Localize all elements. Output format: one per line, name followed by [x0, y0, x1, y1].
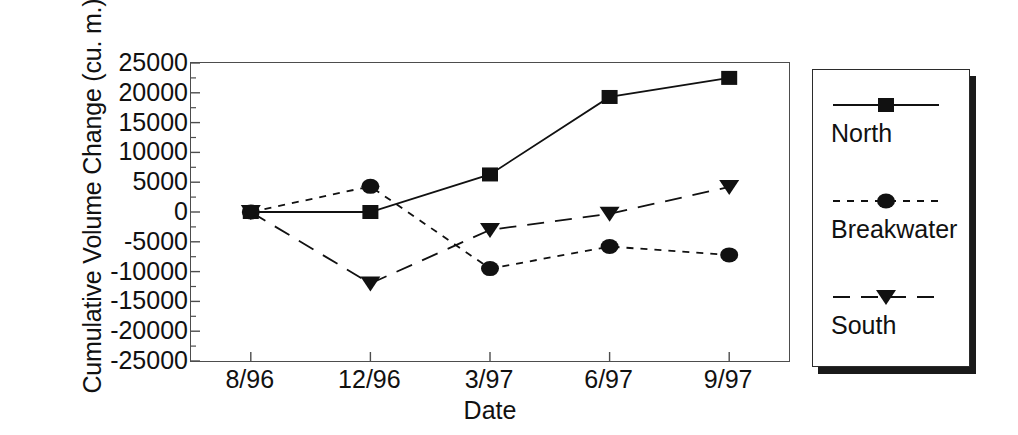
data-point-triangle [600, 207, 620, 222]
y-tick-label: 5000 [60, 169, 188, 194]
data-point-square [362, 205, 378, 219]
data-point-square [878, 98, 894, 112]
y-tick-label: -25000 [60, 348, 188, 373]
x-tick-label: 8/96 [225, 364, 274, 394]
data-point-circle [601, 239, 619, 254]
x-axis-tick-labels: 8/9612/963/976/979/97 [190, 364, 790, 398]
data-point-square [482, 167, 498, 181]
chart-figure: Cumulative Volume Change (cu. m.) 250002… [0, 0, 1018, 435]
data-point-square [602, 90, 618, 104]
series-line [251, 78, 729, 212]
y-tick-label: 0 [60, 199, 188, 224]
x-tick-label: 9/97 [704, 364, 753, 394]
data-point-triangle [360, 277, 380, 292]
legend-entry-breakwater[interactable]: Breakwater [813, 188, 971, 244]
legend-entry-south[interactable]: South [813, 284, 971, 340]
x-axis-title: Date [190, 395, 790, 425]
x-tick-label: 6/97 [584, 364, 633, 394]
legend-label: South [813, 310, 971, 340]
legend-label: Breakwater [813, 214, 971, 244]
legend-entry-north[interactable]: North [813, 92, 971, 148]
legend-label: North [813, 118, 971, 148]
y-axis-tick-labels: 2500020000150001000050000-5000-10000-150… [60, 0, 188, 435]
data-point-circle [361, 179, 379, 194]
y-tick-label: 20000 [60, 80, 188, 105]
x-tick-label: 3/97 [465, 364, 514, 394]
y-tick-label: -5000 [60, 229, 188, 254]
legend-key-square-icon [813, 92, 971, 118]
y-tick-label: 15000 [60, 110, 188, 135]
y-tick-label: 25000 [60, 50, 188, 75]
data-point-triangle [719, 180, 739, 195]
legend-box: NorthBreakwaterSouth [812, 69, 970, 367]
x-tick-label: 12/96 [338, 364, 401, 394]
y-tick-label: 10000 [60, 139, 188, 164]
data-point-circle [481, 261, 499, 276]
data-point-triangle [480, 223, 500, 238]
y-tick-label: -15000 [60, 288, 188, 313]
legend-key-circle-icon [813, 188, 971, 214]
plot-area [190, 62, 790, 362]
data-point-circle [720, 247, 738, 262]
y-tick-label: -10000 [60, 259, 188, 284]
data-point-circle [877, 194, 895, 209]
plot-canvas [191, 63, 789, 361]
series-north [243, 71, 737, 219]
legend-key-triangle-down-icon [813, 284, 971, 310]
data-point-square [721, 71, 737, 85]
y-tick-label: -20000 [60, 318, 188, 343]
